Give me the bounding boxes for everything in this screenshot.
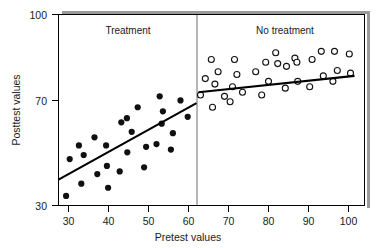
data-point [63,193,69,199]
data-point [94,171,100,177]
data-point [118,119,124,125]
y-tick-label-70: 70 [35,95,47,107]
data-point [232,57,238,63]
regression-line [59,103,197,179]
group-label-no-treatment: No treatment [256,25,314,36]
data-point [307,84,313,90]
data-point [332,48,338,54]
x-tick-label-90: 90 [303,215,315,227]
data-point [177,97,183,103]
data-point [282,85,288,91]
data-point [78,181,84,187]
x-tick-label-50: 50 [143,215,155,227]
data-point [294,59,300,65]
data-point [263,59,269,65]
data-point [227,99,233,105]
data-point [124,149,130,155]
x-axis-title: Pretest values [155,231,222,243]
data-point [253,69,259,75]
scatter-plot-figure: 100 70 30 30 40 50 60 70 80 90 100 Prete… [0,0,379,248]
data-point [129,129,135,135]
data-point [135,104,141,110]
x-tick-label-60: 60 [183,215,195,227]
x-tick-label-70: 70 [223,215,235,227]
data-point [185,114,191,120]
y-tick-label-30: 30 [35,200,47,212]
data-point [67,156,73,162]
regression-fit-lines [59,76,355,180]
x-tick-label-80: 80 [263,215,275,227]
data-point [105,185,111,191]
data-point [309,57,315,63]
frame-drop-shadow [62,13,368,209]
data-point [266,78,272,84]
data-point [143,144,149,150]
data-point [284,63,290,69]
plot-canvas: 100 70 30 30 40 50 60 70 80 90 100 Prete… [0,0,379,248]
y-axis-title: Posttest values [10,74,22,145]
data-point [168,146,174,152]
data-point [273,50,279,56]
data-point [210,104,216,110]
data-point [81,152,87,158]
data-point [346,51,352,57]
x-tick-label-100: 100 [340,215,358,227]
data-point [334,67,340,73]
x-tick-label-30: 30 [63,215,75,227]
y-tick-label-100: 100 [29,9,47,21]
data-point [124,115,130,121]
data-point [91,134,97,140]
data-point [275,61,281,67]
data-point [170,130,176,136]
data-point [212,81,218,87]
data-point [76,142,82,148]
data-point [160,108,166,114]
data-point [117,168,123,174]
data-point [215,69,221,75]
data-point [104,163,110,169]
data-point [157,93,163,99]
data-point [103,142,109,148]
y-axis-ticks [52,15,59,206]
data-point [240,89,246,95]
x-axis-ticks [69,206,349,213]
data-point [208,57,214,63]
data-point [234,72,240,78]
data-point [141,164,147,170]
data-point [202,76,208,82]
group-label-treatment: Treatment [105,25,150,36]
x-tick-label-40: 40 [103,215,115,227]
data-point [222,93,228,99]
data-point [153,141,159,147]
data-point [318,48,324,54]
series-treatment-points [63,93,191,199]
data-point [259,92,265,98]
